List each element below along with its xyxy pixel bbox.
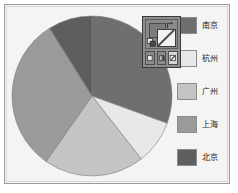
- legend-label-beijing: 北京: [202, 153, 218, 162]
- gradient-mode-button[interactable]: [157, 51, 167, 65]
- legend-label-hangzhou: 杭州: [202, 54, 218, 63]
- legend-swatch-beijing: [177, 149, 197, 166]
- legend-label-nanjing: 南京: [202, 21, 218, 30]
- legend-label-guangzhou: 广州: [202, 87, 218, 96]
- legend-item-shanghai[interactable]: 上海: [177, 114, 229, 135]
- palette-swatch-area: [145, 19, 178, 49]
- screenshot-root: 南京 杭州 广州 上海 北京: [0, 0, 238, 193]
- legend-item-guangzhou[interactable]: 广州: [177, 81, 229, 102]
- flat-color-mode-button[interactable]: [145, 51, 155, 65]
- fill-color-swatch[interactable]: [157, 29, 176, 47]
- legend-item-nanjing[interactable]: 南京: [177, 15, 229, 36]
- none-mode-button[interactable]: [168, 51, 178, 65]
- legend-item-hangzhou[interactable]: 杭州: [177, 48, 229, 69]
- chart-legend: 南京 杭州 广州 上海 北京: [177, 9, 229, 179]
- fill-mode-buttons: [145, 51, 178, 65]
- legend-item-beijing[interactable]: 北京: [177, 147, 229, 168]
- color-palette-widget[interactable]: [142, 16, 181, 68]
- swap-colors-icon[interactable]: [166, 21, 175, 30]
- chart-frame: 南京 杭州 广州 上海 北京: [4, 4, 230, 184]
- legend-swatch-shanghai: [177, 116, 197, 133]
- legend-label-shanghai: 上海: [202, 120, 218, 129]
- default-colors-icon[interactable]: [147, 38, 156, 47]
- legend-swatch-guangzhou: [177, 83, 197, 100]
